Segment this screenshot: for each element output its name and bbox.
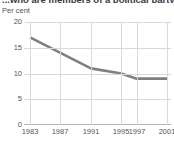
series-polyline xyxy=(30,37,167,78)
x-axis-tick-label: 1987 xyxy=(45,127,75,136)
x-axis-tick-label: 1983 xyxy=(15,127,45,136)
gridline-horizontal xyxy=(24,48,171,49)
y-axis-tick-label: 20 xyxy=(0,18,22,26)
y-axis-tick-labels: 05101520 xyxy=(0,22,22,125)
chart-title: ...who are members of a political party xyxy=(2,0,174,3)
y-axis-tick-label: 10 xyxy=(0,70,22,78)
gridline-vertical xyxy=(121,22,122,125)
y-axis-tick-label: 5 xyxy=(0,95,22,103)
gridline-horizontal xyxy=(24,99,171,100)
x-axis-tick-label: 1997 xyxy=(122,127,152,136)
gridline-vertical xyxy=(167,22,168,125)
gridline-vertical xyxy=(60,22,61,125)
gridline-vertical xyxy=(137,22,138,125)
gridline-horizontal xyxy=(24,22,171,23)
line-chart-figure: ...who are members of a political party … xyxy=(0,0,174,144)
gridline-vertical xyxy=(91,22,92,125)
gridline-horizontal xyxy=(24,124,171,125)
plot-area xyxy=(24,22,171,125)
gridline-horizontal xyxy=(24,74,171,75)
x-axis-tick-labels: 198319871991199519972001 xyxy=(24,127,171,139)
y-axis-unit-label: Per cent xyxy=(2,6,30,15)
gridline-vertical xyxy=(30,22,31,125)
x-axis-tick-label: 1991 xyxy=(76,127,106,136)
x-axis-tick-label: 2001 xyxy=(152,127,174,136)
y-axis-tick-label: 15 xyxy=(0,44,22,52)
